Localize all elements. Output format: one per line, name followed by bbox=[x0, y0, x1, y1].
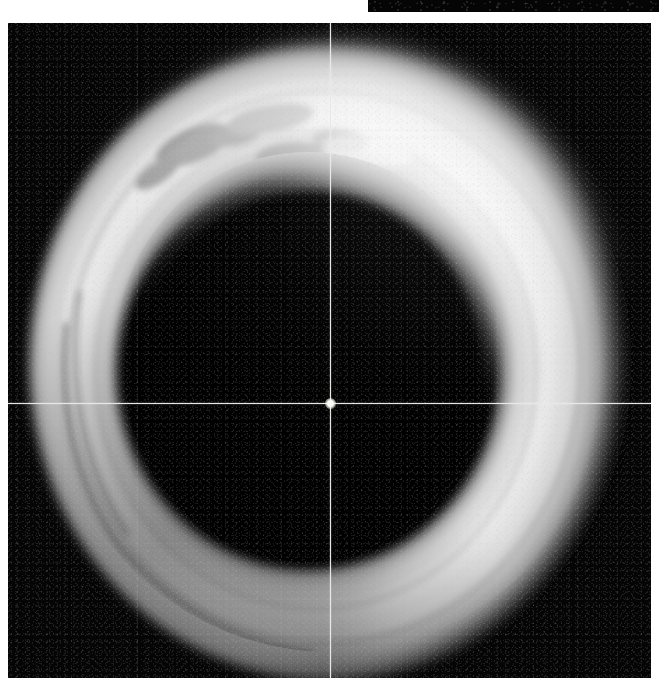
page-margin-left bbox=[0, 23, 8, 691]
page-margin-top bbox=[0, 0, 368, 23]
page-margin-right bbox=[651, 14, 659, 691]
page-margin-bottom bbox=[0, 678, 659, 691]
image-panel[interactable] bbox=[8, 23, 651, 678]
viewer-root bbox=[0, 0, 659, 691]
ring-structure-image bbox=[8, 23, 651, 678]
adjacent-panel-strip bbox=[368, 0, 659, 14]
page-margin-top-right bbox=[368, 14, 659, 23]
